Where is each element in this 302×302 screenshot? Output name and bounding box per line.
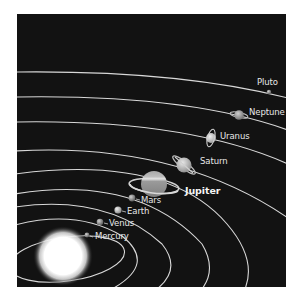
label-mercury: Mercury — [95, 232, 129, 241]
planet-mercury — [85, 233, 93, 238]
planet-pluto — [267, 90, 271, 94]
diagram-canvas — [17, 14, 286, 287]
solar-system-diagram: Mercury Venus Earth Mars Jupiter Saturn … — [17, 14, 286, 287]
planet-venus — [97, 219, 108, 226]
label-mars: Mars — [141, 196, 161, 205]
label-neptune: Neptune — [249, 108, 285, 117]
planet-earth — [114, 206, 126, 213]
planet-saturn — [171, 154, 197, 177]
planet-neptune — [230, 110, 249, 120]
planet-uranus — [205, 128, 216, 147]
orbit-uranus — [17, 122, 286, 164]
figure-frame: Mercury Venus Earth Mars Jupiter Saturn … — [0, 0, 302, 302]
label-jupiter: Jupiter — [185, 186, 220, 196]
label-saturn: Saturn — [200, 157, 227, 166]
planet-mars — [129, 195, 140, 202]
label-uranus: Uranus — [220, 132, 250, 141]
orbit-neptune — [17, 97, 286, 130]
label-pluto: Pluto — [257, 78, 278, 87]
label-earth: Earth — [127, 207, 149, 216]
orbit-pluto — [17, 72, 286, 98]
label-venus: Venus — [109, 219, 134, 228]
